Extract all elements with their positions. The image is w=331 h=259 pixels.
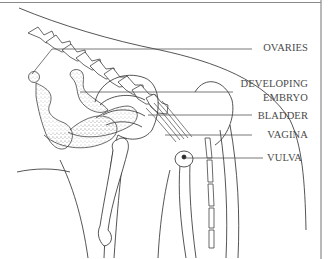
label-bladder: BLADDER [258, 110, 308, 122]
label-ovaries: OVARIES [263, 42, 308, 54]
leader-ovaries [32, 49, 52, 74]
anatomy-diagram: OVARIES DEVELOPING EMBRYO BLADDER VAGINA… [0, 0, 331, 259]
label-embryo: EMBRYO [263, 92, 308, 104]
tail-bones [205, 138, 214, 248]
hind-leg [158, 125, 239, 258]
vulva-region [175, 151, 193, 167]
label-developing: DEVELOPING [241, 78, 309, 90]
label-vulva: VULVA [267, 152, 302, 164]
label-vagina: VAGINA [267, 129, 308, 141]
femur [98, 138, 128, 246]
